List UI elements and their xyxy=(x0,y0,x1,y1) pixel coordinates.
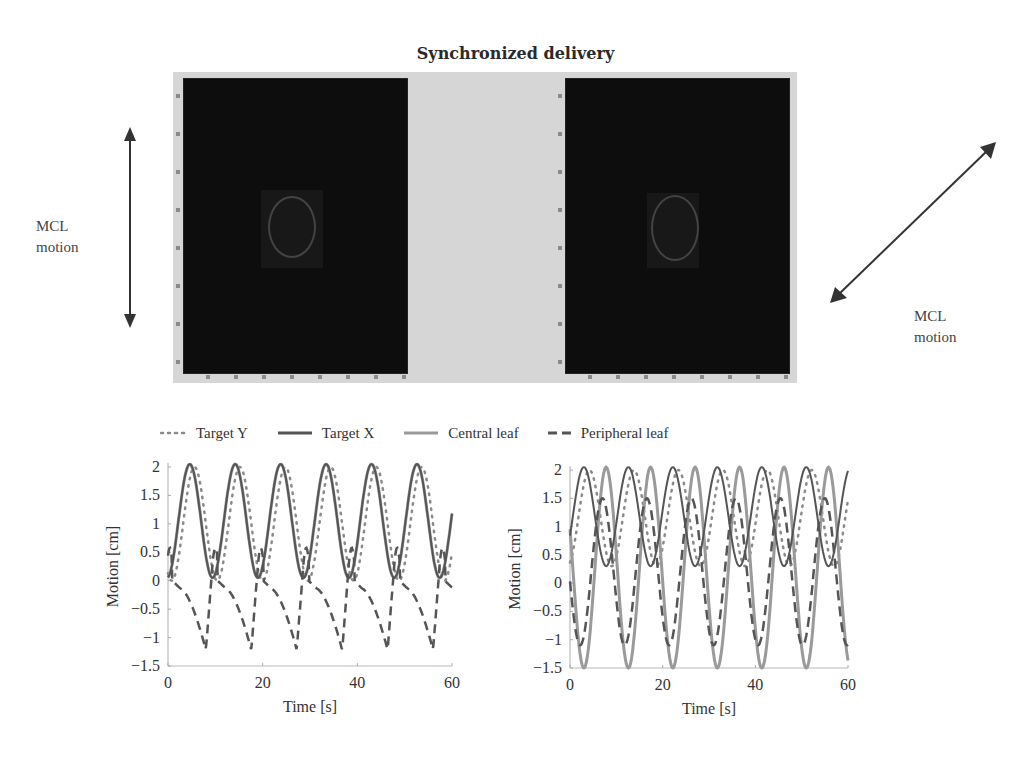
svg-text:2: 2 xyxy=(152,458,160,475)
mcl-motion-label-left: MCL motion xyxy=(36,216,79,258)
svg-text:Motion [cm]: Motion [cm] xyxy=(506,528,523,609)
svg-text:0: 0 xyxy=(554,574,562,591)
svg-text:40: 40 xyxy=(349,674,365,691)
svg-text:−1: −1 xyxy=(545,631,562,648)
svg-text:−1: −1 xyxy=(143,629,160,646)
svg-text:−1.5: −1.5 xyxy=(533,659,562,676)
chart-legend: Target Y Target X Central leaf Periphera… xyxy=(160,421,697,445)
solid-dark-line-icon xyxy=(276,430,314,436)
dotted-line-icon xyxy=(160,430,188,436)
svg-text:40: 40 xyxy=(747,676,763,693)
svg-text:−1.5: −1.5 xyxy=(131,657,160,674)
mcl-motion-label-right: MCL motion xyxy=(914,306,957,348)
svg-text:1.5: 1.5 xyxy=(542,489,562,506)
legend-item-central-leaf: Central leaf xyxy=(402,425,518,442)
svg-text:0.5: 0.5 xyxy=(140,543,160,560)
svg-text:1: 1 xyxy=(152,515,160,532)
diagonal-double-arrow-icon xyxy=(820,135,1005,310)
svg-text:Time [s]: Time [s] xyxy=(682,700,736,717)
figure-title: Synchronized delivery xyxy=(0,44,1031,63)
svg-text:Time [s]: Time [s] xyxy=(283,698,337,715)
motion-chart-right: 21.510.50−0.5−1−1.50204060Time [s]Motion… xyxy=(490,450,870,740)
svg-text:1.5: 1.5 xyxy=(140,486,160,503)
svg-text:0: 0 xyxy=(164,674,172,691)
dashed-line-icon xyxy=(547,430,573,436)
legend-item-target-x: Target X xyxy=(276,425,374,442)
svg-text:0: 0 xyxy=(152,572,160,589)
legend-item-peripheral-leaf: Peripheral leaf xyxy=(547,425,669,442)
solid-light-line-icon xyxy=(402,430,440,436)
svg-text:0: 0 xyxy=(566,676,574,693)
svg-text:0.5: 0.5 xyxy=(542,546,562,563)
image-ticks xyxy=(173,72,797,383)
svg-text:Motion [cm]: Motion [cm] xyxy=(104,526,121,607)
svg-text:−0.5: −0.5 xyxy=(533,602,562,619)
legend-item-target-y: Target Y xyxy=(160,425,248,442)
svg-text:2: 2 xyxy=(554,461,562,478)
svg-text:−0.5: −0.5 xyxy=(131,600,160,617)
svg-text:60: 60 xyxy=(444,674,460,691)
svg-text:60: 60 xyxy=(840,676,856,693)
vertical-double-arrow-icon xyxy=(120,125,140,330)
svg-text:20: 20 xyxy=(255,674,271,691)
svg-text:20: 20 xyxy=(655,676,671,693)
motion-chart-left: 21.510.50−0.5−1−1.50204060Time [s]Motion… xyxy=(90,450,470,740)
svg-text:1: 1 xyxy=(554,518,562,535)
